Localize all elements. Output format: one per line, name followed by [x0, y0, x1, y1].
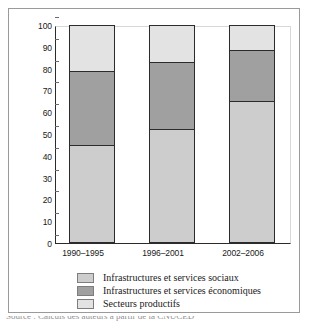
legend-label: Infrastructures et services économiques [103, 285, 261, 296]
x-category-label: 1990–1995 [40, 248, 126, 258]
figure-frame: 1009080706050403020100 Infrastructures e… [8, 8, 300, 313]
bar-segment [70, 26, 114, 71]
legend-swatch [77, 286, 94, 296]
chart-legend: Infrastructures et services sociauxInfra… [77, 271, 261, 310]
y-tick-mark [55, 82, 59, 83]
bar-segment [150, 130, 194, 242]
y-tick-mark [55, 191, 59, 192]
x-category-label: 1996–2001 [120, 248, 206, 258]
bar-segment [230, 102, 274, 242]
bar-segment [150, 26, 194, 62]
y-tick-mark [55, 17, 59, 18]
bar-segment [70, 71, 114, 146]
y-tick-mark [55, 126, 59, 127]
y-tick-label: 50 [43, 130, 52, 140]
y-tick-mark [55, 39, 59, 40]
legend-item: Infrastructures et services économiques [77, 284, 261, 297]
y-tick-label: 10 [43, 217, 52, 227]
y-tick-mark [55, 148, 59, 149]
y-axis: 1009080706050403020100 [23, 26, 52, 244]
legend-swatch [77, 273, 94, 283]
y-tick-mark [55, 170, 59, 171]
y-tick-label: 80 [43, 65, 52, 75]
chart-page: 1009080706050403020100 Infrastructures e… [0, 0, 313, 323]
y-tick-label: 90 [43, 43, 52, 53]
x-category-label: 2002–2006 [200, 248, 286, 258]
bar-segment [230, 26, 274, 50]
y-tick-label: 100 [38, 21, 52, 31]
y-tick-label: 60 [43, 108, 52, 118]
bar-segment [230, 50, 274, 102]
y-tick-mark [55, 235, 59, 236]
y-tick-mark [55, 104, 59, 105]
y-tick-label: 40 [43, 152, 52, 162]
legend-label: Secteurs productifs [103, 298, 180, 309]
bar-3 [229, 25, 275, 243]
legend-swatch [77, 299, 94, 309]
y-tick-label: 30 [43, 174, 52, 184]
caption-text: Source : Calculs des auteurs à partir de… [6, 316, 306, 321]
caption-clipped: Source : Calculs des auteurs à partir de… [6, 316, 306, 323]
y-tick-mark [55, 61, 59, 62]
bar-segment [70, 146, 114, 242]
y-tick-label: 70 [43, 86, 52, 96]
bar-2 [149, 25, 195, 243]
legend-label: Infrastructures et services sociaux [103, 272, 239, 283]
y-tick-mark [55, 213, 59, 214]
bar-1 [69, 25, 115, 243]
y-tick-label: 20 [43, 195, 52, 205]
plot-area [55, 26, 291, 244]
legend-item: Infrastructures et services sociaux [77, 271, 261, 284]
legend-item: Secteurs productifs [77, 297, 261, 310]
bar-segment [150, 62, 194, 130]
